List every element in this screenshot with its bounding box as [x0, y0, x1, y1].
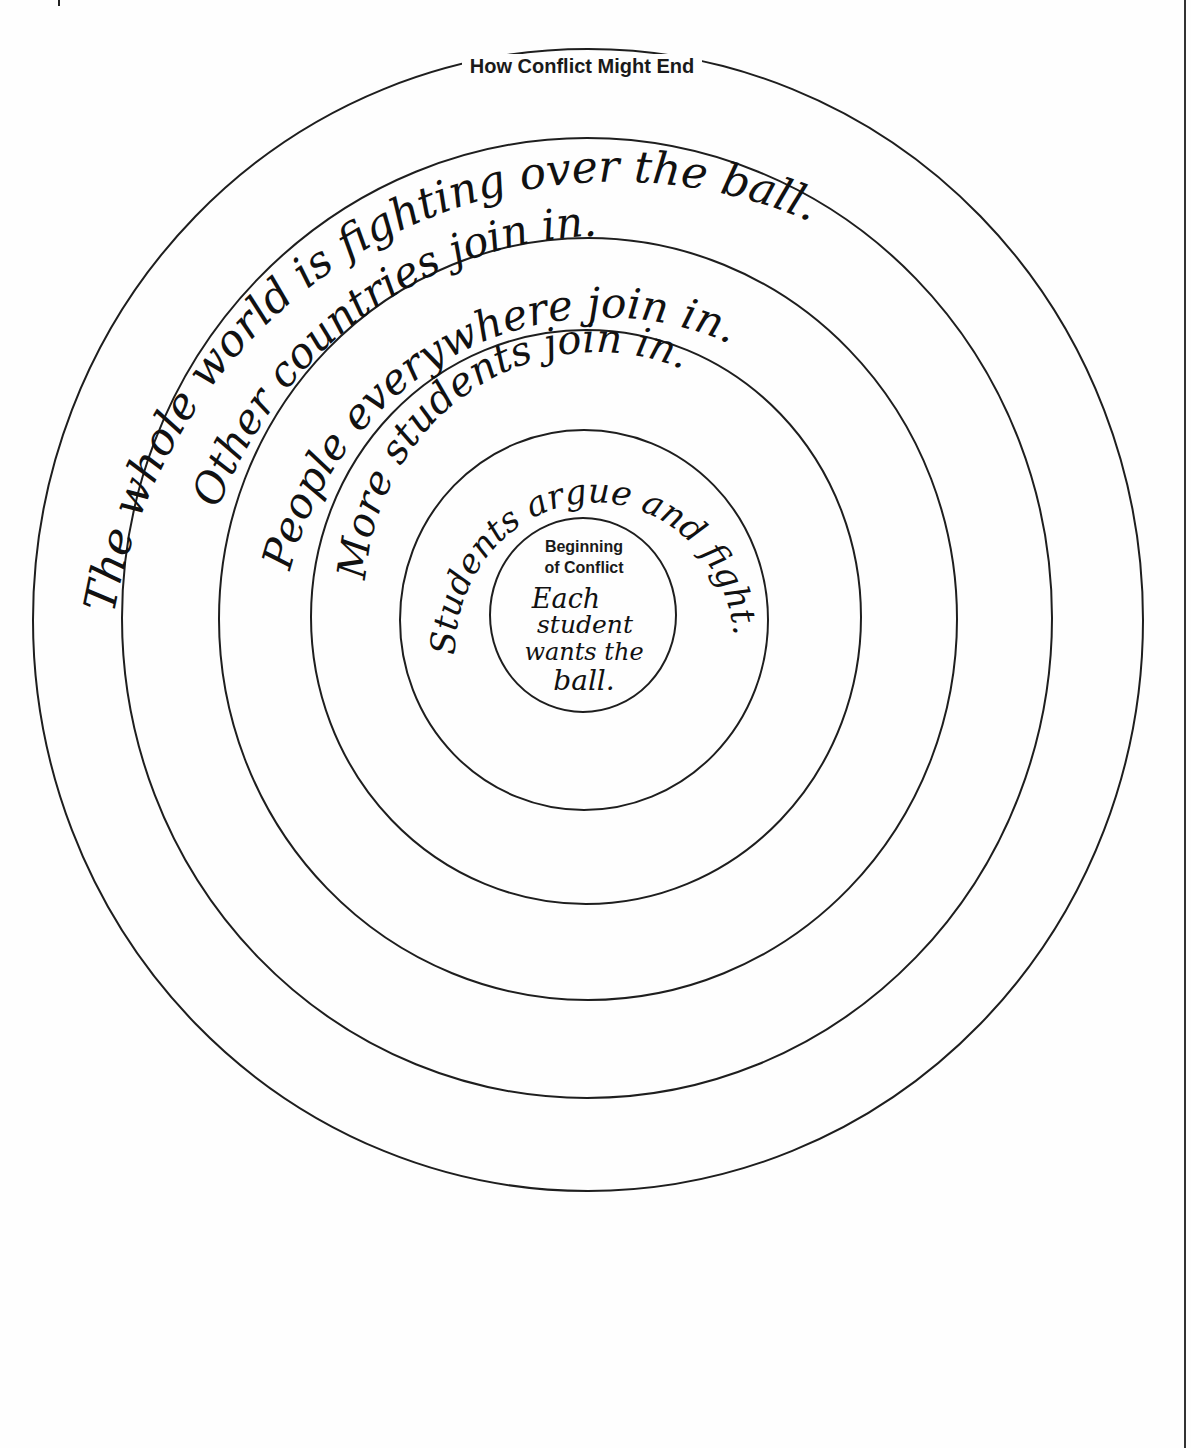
inner-text-line4: ball.: [553, 664, 614, 697]
inner-text-line2: student: [537, 610, 634, 639]
worksheet-page: How Conflict Might End The whole world i…: [0, 0, 1191, 1448]
outer-title: How Conflict Might End: [470, 55, 694, 77]
inner-text-line3: wants the: [524, 638, 643, 666]
conflict-circles-diagram: How Conflict Might End The whole world i…: [0, 0, 1191, 1448]
inner-title-line2: of Conflict: [544, 559, 624, 576]
inner-title-line1: Beginning: [545, 538, 623, 555]
ring-3-label: More students join in.: [328, 315, 697, 583]
